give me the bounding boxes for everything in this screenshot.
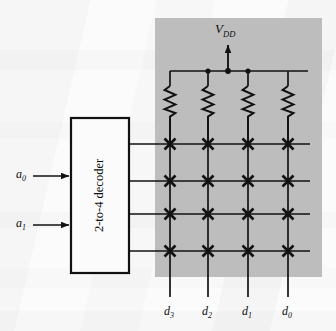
input-label-a0: a0 <box>16 168 26 183</box>
schematic-svg <box>0 0 336 331</box>
vdd-label: VDD <box>215 22 235 38</box>
output-label-d0: d0 <box>282 305 292 320</box>
decoder-inputs <box>33 176 69 225</box>
output-label-d3: d3 <box>164 305 174 320</box>
rom-array-panel <box>155 18 322 277</box>
output-label-d1: d1 <box>242 305 252 320</box>
input-label-a1: a1 <box>16 217 26 232</box>
decoder-box <box>71 118 129 273</box>
junction-dot <box>205 68 210 73</box>
junction-dot <box>245 68 250 73</box>
output-label-d2: d2 <box>202 305 212 320</box>
figure-canvas: VDD a0 a1 d3 d2 d1 d0 2-to-4 decoder <box>0 0 336 331</box>
